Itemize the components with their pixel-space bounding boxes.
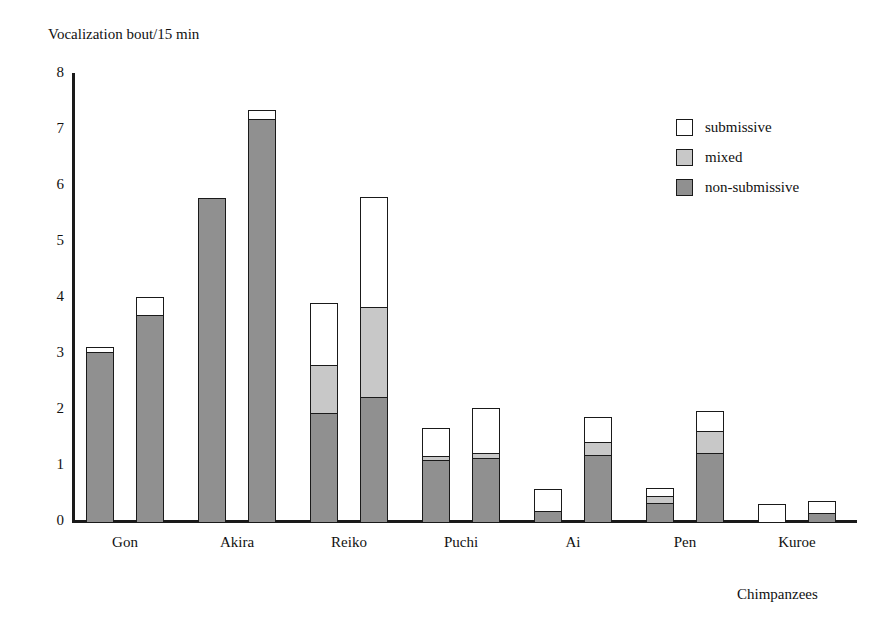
legend-label-non-submissive: non-submissive <box>705 179 799 196</box>
legend-swatch-mixed <box>676 149 693 166</box>
x-axis-tick-puchi: Puchi <box>444 534 478 551</box>
bar-segment-mixed <box>310 365 338 415</box>
bar-ai-2[interactable] <box>584 412 612 521</box>
bar-akira-2[interactable] <box>248 107 276 521</box>
bar-segment-non-submissive <box>86 352 114 523</box>
bar-segment-non-submissive <box>422 460 450 523</box>
legend-swatch-submissive <box>676 119 693 136</box>
bar-segment-non-submissive <box>808 513 836 523</box>
bar-segment-submissive <box>360 197 388 308</box>
legend-label-mixed: mixed <box>705 149 743 166</box>
bar-segment-non-submissive <box>646 503 674 523</box>
y-axis-tick-0: 0 <box>38 513 64 528</box>
bar-segment-mixed <box>696 431 724 455</box>
bar-segment-submissive <box>472 408 500 454</box>
x-axis-tick-reiko: Reiko <box>331 534 367 551</box>
bar-segment-submissive <box>534 489 562 513</box>
bar-segment-non-submissive <box>472 458 500 522</box>
bar-ai-1[interactable] <box>534 486 562 521</box>
chart-container: Vocalization bout/15 min 876543210 submi… <box>0 0 896 637</box>
y-axis-tick-8: 8 <box>38 65 64 80</box>
bar-segment-submissive <box>758 504 786 522</box>
bar-segment-submissive <box>584 417 612 444</box>
legend-label-submissive: submissive <box>705 119 772 136</box>
y-axis-tick-6: 6 <box>38 177 64 192</box>
bar-reiko-1[interactable] <box>310 299 338 521</box>
y-axis-tick-4: 4 <box>38 289 64 304</box>
bar-kuroe-2[interactable] <box>808 497 836 521</box>
y-axis-tick-3: 3 <box>38 345 64 360</box>
bar-segment-mixed <box>360 307 388 398</box>
bar-gon-1[interactable] <box>86 343 114 521</box>
legend-swatch-non-submissive <box>676 179 693 196</box>
y-axis-tick-2: 2 <box>38 401 64 416</box>
bar-segment-non-submissive <box>136 315 164 522</box>
bar-segment-non-submissive <box>584 455 612 522</box>
y-axis-tick-1: 1 <box>38 457 64 472</box>
bar-segment-non-submissive <box>696 453 724 523</box>
bar-segment-non-submissive <box>248 119 276 522</box>
x-axis-title: Chimpanzees <box>737 586 818 603</box>
x-axis-tick-gon: Gon <box>112 534 138 551</box>
bar-pen-2[interactable] <box>696 406 724 521</box>
bar-reiko-2[interactable] <box>360 192 388 521</box>
bar-segment-submissive <box>422 428 450 458</box>
bar-gon-2[interactable] <box>136 294 164 521</box>
bar-pen-1[interactable] <box>646 483 674 521</box>
x-axis-tick-ai: Ai <box>566 534 581 551</box>
bar-segment-submissive <box>696 411 724 432</box>
bar-segment-submissive <box>136 297 164 317</box>
x-axis-tick-pen: Pen <box>674 534 697 551</box>
legend-item-mixed[interactable]: mixed <box>676 142 799 172</box>
bar-segment-non-submissive <box>198 198 226 523</box>
y-axis-tick-labels: 876543210 <box>16 0 64 637</box>
bar-akira-1[interactable] <box>198 196 226 521</box>
bar-kuroe-1[interactable] <box>758 503 786 521</box>
y-axis-tick-5: 5 <box>38 233 64 248</box>
y-axis-tick-7: 7 <box>38 121 64 136</box>
bar-puchi-2[interactable] <box>472 403 500 521</box>
legend-item-submissive[interactable]: submissive <box>676 112 799 142</box>
bar-segment-non-submissive <box>360 397 388 523</box>
bar-segment-non-submissive <box>534 511 562 522</box>
bar-segment-non-submissive <box>310 413 338 522</box>
bar-puchi-1[interactable] <box>422 423 450 521</box>
x-axis-tick-akira: Akira <box>220 534 254 551</box>
x-axis-tick-kuroe: Kuroe <box>778 534 816 551</box>
chart-legend: submissivemixednon-submissive <box>676 112 799 202</box>
legend-item-non-submissive[interactable]: non-submissive <box>676 172 799 202</box>
bar-segment-submissive <box>310 303 338 366</box>
y-axis-title: Vocalization bout/15 min <box>48 26 199 43</box>
